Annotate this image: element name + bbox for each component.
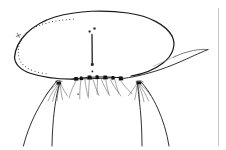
figure-canvas bbox=[0, 0, 226, 150]
stippled-inner-margin bbox=[18, 19, 74, 75]
lateral-notch-mark bbox=[16, 33, 20, 37]
median-vertical-seta bbox=[89, 27, 96, 65]
lateral-appendage bbox=[122, 49, 208, 78]
body-outline bbox=[15, 11, 174, 79]
right-leg-hairs bbox=[129, 85, 151, 102]
figure-root bbox=[0, 0, 226, 150]
median-seta-top-dots bbox=[89, 27, 96, 32]
ventral-setae-fan bbox=[69, 79, 132, 99]
